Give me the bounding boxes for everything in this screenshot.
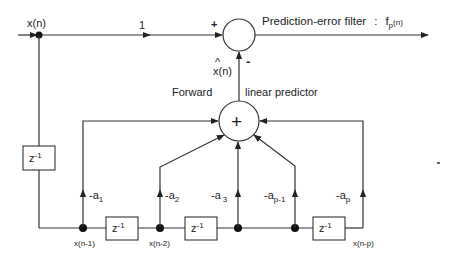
artifact-speck bbox=[437, 162, 440, 164]
input-path bbox=[18, 32, 222, 39]
predictor-label-left: Forward bbox=[172, 86, 212, 98]
minus-sign: - bbox=[246, 54, 250, 69]
prediction-error-filter-diagram: x(n) 1 + - Prediction-error filter:fp(n)… bbox=[0, 0, 456, 263]
tap-1-wire bbox=[83, 121, 218, 192]
plus-sign: + bbox=[211, 18, 217, 30]
predictor-plus: + bbox=[231, 111, 242, 132]
node-label-n-1: x(n-1) bbox=[74, 239, 95, 248]
input-label: x(n) bbox=[27, 17, 46, 29]
error-adder bbox=[223, 19, 255, 51]
node-label-n-2: x(n-2) bbox=[149, 239, 170, 248]
tap-p-wire bbox=[260, 121, 363, 192]
estimate-label: x(n) bbox=[213, 65, 232, 77]
predictor-label-right: linear predictor bbox=[245, 86, 318, 98]
tap-p-label: -ap bbox=[336, 189, 351, 204]
tap-p-1-label: -ap-1 bbox=[264, 189, 286, 204]
node-label-n-p: x(n-p) bbox=[353, 239, 374, 248]
tap-2-label: -a2 bbox=[165, 189, 180, 204]
tap-3-label: -a3 bbox=[211, 189, 228, 204]
gain-label: 1 bbox=[139, 19, 145, 31]
tap-2-wire bbox=[160, 135, 224, 192]
tap-p-1-wire bbox=[254, 135, 295, 192]
tap-1-label: -a1 bbox=[89, 189, 104, 204]
filter-title: Prediction-error filter:fp(n) bbox=[262, 15, 403, 30]
